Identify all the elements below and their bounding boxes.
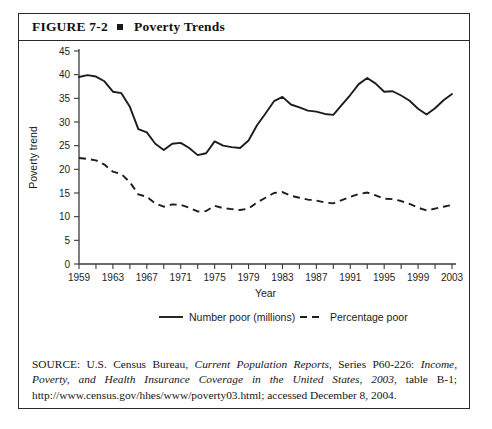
y-axis-tick-label: 5 bbox=[64, 235, 70, 246]
y-axis-tick-label: 25 bbox=[59, 140, 71, 151]
y-axis-tick-label: 45 bbox=[59, 46, 71, 57]
y-axis-title: Poverty trend bbox=[27, 126, 39, 189]
x-axis-tick-label: 1987 bbox=[305, 272, 328, 283]
x-axis-tick-label: 1975 bbox=[204, 272, 227, 283]
source-italic-publication: Current Population Reports bbox=[195, 358, 329, 370]
source-middle-1: , Series P60-226: bbox=[329, 358, 421, 370]
x-axis-tick-label: 1967 bbox=[136, 272, 159, 283]
figure-header: FIGURE 7-2 Poverty Trends bbox=[19, 14, 469, 41]
legend-label: Percentage poor bbox=[330, 311, 408, 323]
legend-item-1: Number poor (millions) bbox=[159, 311, 295, 323]
square-bullet-icon bbox=[117, 24, 123, 30]
x-axis-tick-label: 1995 bbox=[373, 272, 396, 283]
axes-group: 0510152025303540451959196319671971197519… bbox=[27, 46, 464, 299]
x-axis-tick-label: 1983 bbox=[271, 272, 294, 283]
legend-label: Number poor (millions) bbox=[189, 311, 295, 323]
figure-title-text: Poverty Trends bbox=[134, 19, 225, 34]
poverty-trends-line-chart: 0510152025303540451959196319671971197519… bbox=[19, 41, 468, 371]
y-axis-tick-label: 20 bbox=[59, 164, 71, 175]
figure-title: FIGURE 7-2 Poverty Trends bbox=[32, 19, 225, 35]
y-axis-tick-label: 10 bbox=[59, 211, 71, 222]
x-axis-tick-label: 1959 bbox=[68, 272, 91, 283]
series-group bbox=[79, 75, 452, 211]
x-axis-tick-label: 1999 bbox=[407, 272, 430, 283]
y-axis-tick-label: 0 bbox=[64, 259, 70, 270]
legend-group: Number poor (millions)Percentage poor bbox=[159, 311, 408, 323]
y-axis-tick-label: 35 bbox=[59, 93, 71, 104]
y-axis-tick-label: 30 bbox=[59, 117, 71, 128]
x-axis-tick-label: 1979 bbox=[237, 272, 260, 283]
x-axis-tick-label: 1971 bbox=[170, 272, 193, 283]
figure-label: FIGURE 7-2 bbox=[32, 19, 108, 34]
x-axis-title: Year bbox=[255, 287, 277, 299]
x-axis-tick-label: 2003 bbox=[441, 272, 464, 283]
y-axis-tick-label: 15 bbox=[59, 188, 71, 199]
source-note: SOURCE: U.S. Census Bureau, Current Popu… bbox=[32, 357, 457, 403]
series-line-1 bbox=[79, 75, 452, 155]
x-axis-tick-label: 1991 bbox=[339, 272, 362, 283]
x-axis-tick-label: 1963 bbox=[102, 272, 125, 283]
source-prefix: SOURCE: U.S. Census Bureau, bbox=[32, 358, 195, 370]
y-axis-tick-label: 40 bbox=[59, 69, 71, 80]
chart-plot-area: 0510152025303540451959196319671971197519… bbox=[19, 41, 469, 371]
legend-item-2: Percentage poor bbox=[300, 311, 408, 323]
figure-box: FIGURE 7-2 Poverty Trends 05101520253035… bbox=[18, 13, 470, 409]
series-line-2 bbox=[79, 158, 452, 211]
